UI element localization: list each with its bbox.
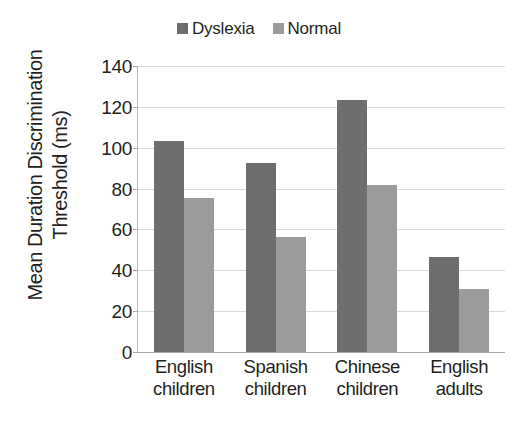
bar-group-english-adults — [413, 66, 505, 352]
y-tick-label-80: 80 — [82, 179, 132, 198]
x-axis-label-line2: children — [138, 378, 230, 400]
legend-label-dyslexia: Dyslexia — [192, 20, 255, 37]
x-axis-label-english-children: Englishchildren — [138, 356, 230, 400]
x-axis-label-line1: English — [155, 356, 213, 377]
x-axis-label-spanish-children: Spanishchildren — [230, 356, 322, 400]
legend-label-normal: Normal — [288, 20, 342, 37]
legend-item-normal: Normal — [273, 20, 342, 37]
x-axis-label-line1: Chinese — [335, 356, 400, 377]
x-axis-label-line2: adults — [413, 378, 505, 400]
y-tick-label-20: 20 — [82, 302, 132, 321]
legend-swatch-dyslexia — [177, 23, 188, 34]
bar-group-spanish-children — [230, 66, 322, 352]
y-axis-title-line1: Mean Duration Discrimination — [23, 49, 48, 300]
y-tick-label-60: 60 — [82, 220, 132, 239]
gridline-0 — [138, 352, 505, 353]
bar-normal-english-children — [184, 198, 214, 352]
bar-dyslexia-english-adults — [429, 257, 459, 352]
bars-layer — [138, 66, 505, 352]
x-axis-label-line1: English — [430, 356, 488, 377]
y-tick-mark-0 — [133, 352, 138, 353]
y-tick-label-0: 0 — [82, 343, 132, 362]
y-tick-label-100: 100 — [82, 138, 132, 157]
bar-dyslexia-english-children — [154, 141, 184, 352]
legend-swatch-normal — [273, 23, 284, 34]
y-axis-title-line2: Threshold (ms) — [48, 111, 73, 240]
bar-group-english-children — [138, 66, 230, 352]
x-axis-label-line2: children — [230, 378, 322, 400]
y-axis-title: Mean Duration Discrimination Threshold (… — [18, 10, 78, 340]
y-tick-label-120: 120 — [82, 97, 132, 116]
y-tick-label-40: 40 — [82, 261, 132, 280]
y-tick-label-140: 140 — [82, 57, 132, 76]
bar-normal-spanish-children — [276, 237, 306, 352]
x-axis-labels: EnglishchildrenSpanishchildrenChinesechi… — [138, 356, 505, 400]
x-axis-label-line1: Spanish — [244, 356, 308, 377]
bar-dyslexia-chinese-children — [337, 100, 367, 352]
x-axis-label-english-adults: Englishadults — [413, 356, 505, 400]
bar-normal-chinese-children — [367, 185, 397, 353]
y-axis-ticks: 140120100806040200 — [82, 66, 132, 352]
bar-chart: Dyslexia Normal Mean Duration Discrimina… — [0, 0, 518, 436]
x-axis-label-line2: children — [322, 378, 414, 400]
bar-dyslexia-spanish-children — [246, 163, 276, 352]
legend-item-dyslexia: Dyslexia — [177, 20, 255, 37]
bar-normal-english-adults — [459, 289, 489, 352]
x-axis-label-chinese-children: Chinesechildren — [322, 356, 414, 400]
bar-group-chinese-children — [322, 66, 414, 352]
